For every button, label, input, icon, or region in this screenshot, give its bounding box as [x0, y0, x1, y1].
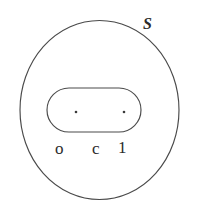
- outer-circle-s: [20, 21, 179, 200]
- point-label-o: o: [55, 140, 64, 157]
- right-dot: [123, 111, 126, 114]
- figure-canvas: S o c 1: [0, 0, 199, 211]
- left-dot: [75, 111, 78, 114]
- outer-circle-label: S: [143, 16, 152, 32]
- inner-stadium-shape: [47, 88, 141, 132]
- diagram-svg: [0, 0, 199, 211]
- point-label-1: 1: [118, 139, 127, 156]
- point-label-c: c: [92, 140, 100, 157]
